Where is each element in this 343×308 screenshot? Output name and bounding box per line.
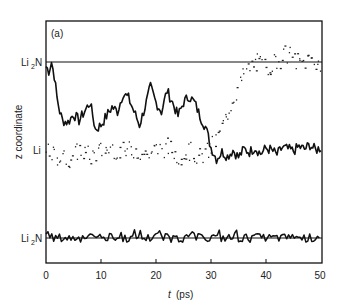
x-tick-label: 20 [150,270,162,281]
li-plane-label: Li [33,145,41,156]
x-tick-labels: 0 10 20 30 40 50 [43,270,326,281]
y-axis-label: z coordinate [13,104,24,159]
solid-trajectory-line [46,63,321,164]
lower-trajectory-line [46,230,319,243]
x-tick-label: 50 [314,270,326,281]
x-tick-label: 30 [205,270,217,281]
plot-frame [46,21,322,263]
lower-li2n-label: Li 2 N [21,233,42,246]
svg-text:Li: Li [21,57,29,68]
x-axis-label-units: (ps) [176,289,193,300]
x-axis-label-symbol: t [168,289,172,300]
series-layer [46,45,322,242]
svg-text:N: N [35,57,42,68]
z-coordinate-chart: 0 10 20 30 40 50 t (ps) z coordinate Li … [0,0,343,308]
x-tick-label: 0 [43,270,49,281]
x-tick-label: 10 [95,270,107,281]
panel-label: (a) [51,28,63,39]
svg-text:Li: Li [21,233,29,244]
upper-li2n-label: Li 2 N [21,57,42,70]
x-tick-label: 40 [260,270,272,281]
svg-text:N: N [35,233,42,244]
